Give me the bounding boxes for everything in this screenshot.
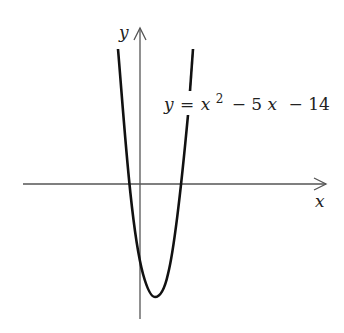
y-axis-label: y (118, 22, 129, 42)
equation-label: y = x 2 − 5 x − 14 (163, 87, 330, 114)
parabola-graph: y x y = x 2 − 5 x − 14 (0, 0, 344, 333)
x-axis-label: x (315, 191, 325, 211)
parabola-curve (118, 49, 188, 297)
parabola-curve-upper-right (190, 49, 193, 91)
